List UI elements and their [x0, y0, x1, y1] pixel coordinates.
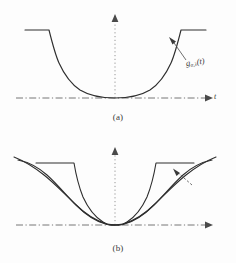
y-axis-a: [112, 14, 119, 98]
curve-g-alpha-lambda: [25, 30, 206, 98]
y-axis-b: [112, 147, 119, 225]
panel-a-caption: (a): [0, 112, 236, 122]
label-g-argument: (t): [196, 56, 205, 67]
leader-line-a: [169, 37, 186, 60]
figure-container: gα,λ(t) t (a): [0, 0, 236, 263]
x-axis-label-a: t: [214, 92, 216, 101]
panel-b-caption: (b): [0, 243, 236, 253]
curve-p-half: [18, 160, 212, 225]
